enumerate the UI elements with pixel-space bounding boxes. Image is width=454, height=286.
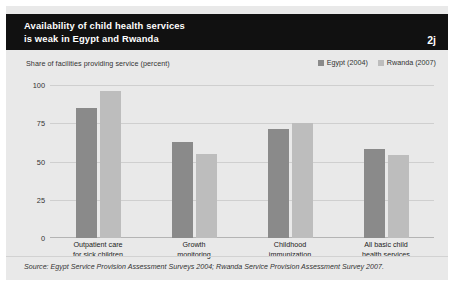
- figure-container: Availability of child health services is…: [6, 6, 448, 280]
- bar-egypt-outpatient-care: [76, 108, 97, 238]
- y-tick-0: 0: [41, 234, 45, 243]
- y-axis-label: Share of facilities providing service (p…: [26, 59, 170, 68]
- bar-group-growth-monitoring: [146, 85, 242, 238]
- title-line-1: Availability of child health services: [24, 19, 354, 32]
- category-line: All basic child: [338, 240, 434, 250]
- bar-egypt-growth-monitoring: [172, 142, 193, 238]
- bar-rwanda-all-basic-child-health-services: [388, 155, 409, 238]
- category-line: immunization: [242, 250, 338, 260]
- bar-egypt-childhood-immunization: [268, 129, 289, 238]
- legend-swatch-egypt: [318, 60, 324, 66]
- chart-legend: Egypt (2004) Rwanda (2007): [318, 58, 436, 67]
- bar-group-all-basic-child-health-services: [338, 85, 434, 238]
- chart-panel: Share of facilities providing service (p…: [6, 50, 448, 256]
- category-line: Outpatient care: [50, 240, 146, 250]
- y-tick-50: 50: [37, 157, 45, 166]
- legend-swatch-rwanda: [378, 60, 384, 66]
- category-line: Childhood: [242, 240, 338, 250]
- legend-label-egypt: Egypt (2004): [327, 58, 368, 67]
- legend-label-rwanda: Rwanda (2007): [387, 58, 436, 67]
- bar-rwanda-growth-monitoring: [196, 154, 217, 238]
- plot-area: 100 75 50 25 0: [50, 85, 434, 238]
- y-tick-25: 25: [37, 195, 45, 204]
- page-title: Availability of child health services is…: [24, 19, 354, 45]
- legend-item-egypt: Egypt (2004): [318, 58, 368, 67]
- footer-divider: [6, 256, 448, 257]
- category-line: monitoring: [146, 250, 242, 260]
- y-tick-75: 75: [37, 119, 45, 128]
- y-tick-100: 100: [33, 81, 45, 90]
- category-line: Growth: [146, 240, 242, 250]
- bar-rwanda-childhood-immunization: [292, 123, 313, 238]
- figure-header: Availability of child health services is…: [6, 14, 448, 50]
- bar-egypt-all-basic-child-health-services: [364, 149, 385, 238]
- bar-rwanda-outpatient-care: [100, 91, 121, 238]
- legend-item-rwanda: Rwanda (2007): [378, 58, 436, 67]
- bar-group-childhood-immunization: [242, 85, 338, 238]
- bar-groups: [50, 85, 434, 238]
- category-line: for sick children: [50, 250, 146, 260]
- source-note: Source: Egypt Service Provision Assessme…: [24, 263, 384, 271]
- category-line: health services: [338, 250, 434, 260]
- figure-number: 2j: [427, 34, 436, 46]
- title-line-2: is weak in Egypt and Rwanda: [24, 32, 354, 45]
- bar-group-outpatient-care: [50, 85, 146, 238]
